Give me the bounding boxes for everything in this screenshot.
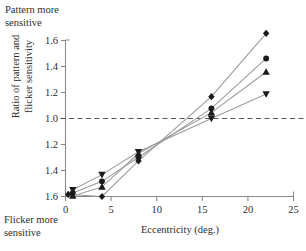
tick-label-group: 1.61.41.21.01.21.41.60510152025 bbox=[45, 35, 299, 214]
data-point-triangle-down bbox=[98, 172, 105, 179]
data-point-circle bbox=[263, 55, 269, 61]
x-axis-tick-label: 25 bbox=[288, 204, 299, 215]
axes-group bbox=[61, 40, 294, 201]
series-line bbox=[68, 33, 266, 196]
x-axis-tick-label: 15 bbox=[197, 204, 208, 215]
y-axis-tick-label: 1.0 bbox=[45, 113, 58, 124]
figure-container: Pattern more sensitive Flicker more sens… bbox=[0, 0, 306, 251]
y-axis-tick-label: 1.6 bbox=[45, 191, 58, 202]
scatter-line-plot: 1.61.41.21.01.21.41.60510152025 bbox=[0, 0, 306, 251]
y-axis-tick-label: 1.2 bbox=[45, 87, 58, 98]
series-diamond bbox=[65, 30, 269, 200]
x-axis-tick-label: 5 bbox=[108, 204, 113, 215]
x-axis-tick-label: 10 bbox=[151, 204, 162, 215]
y-axis-tick-label: 1.4 bbox=[45, 165, 59, 176]
data-point-triangle-up bbox=[262, 68, 269, 75]
y-axis-tick-label: 1.6 bbox=[45, 35, 58, 46]
y-axis-tick-label: 1.2 bbox=[45, 139, 58, 150]
series-circle bbox=[70, 55, 269, 195]
series-triangle-down bbox=[69, 91, 270, 193]
y-axis-tick-label: 1.4 bbox=[45, 61, 59, 72]
x-axis-tick-label: 20 bbox=[243, 204, 254, 215]
data-series-group bbox=[65, 30, 270, 200]
x-axis-tick-label: 0 bbox=[63, 204, 68, 215]
data-point-triangle-down bbox=[262, 91, 269, 98]
